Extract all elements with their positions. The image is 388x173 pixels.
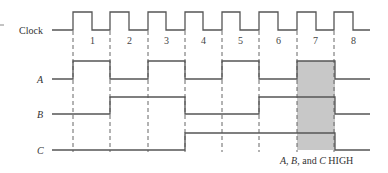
svg-text:6: 6 (276, 35, 281, 46)
svg-text:1: 1 (90, 35, 95, 46)
svg-text:3: 3 (164, 35, 169, 46)
svg-text:8: 8 (351, 35, 356, 46)
label-c: C (37, 145, 44, 156)
label-b: B (37, 109, 43, 120)
svg-text:5: 5 (238, 35, 243, 46)
svg-text:4: 4 (201, 35, 206, 46)
svg-text:2: 2 (127, 35, 132, 46)
timing-diagram: Clock A B C 1 2 3 4 5 6 7 8 A, B, and C … (0, 0, 388, 173)
svg-text:7: 7 (313, 35, 318, 46)
clock-waveform (52, 12, 370, 30)
label-clock: Clock (19, 25, 43, 36)
highlight-region (297, 61, 335, 150)
pulse-numbers: 1 2 3 4 5 6 7 8 (90, 35, 356, 46)
clock-edge-guides (73, 31, 334, 152)
highlight-caption: A, B, and C HIGH (279, 155, 353, 166)
label-a: A (36, 74, 44, 85)
